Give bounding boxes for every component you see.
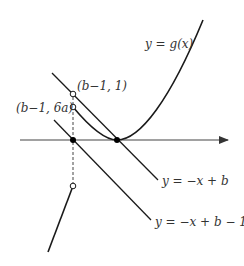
- label-curve-g: y = g(x): [144, 37, 194, 51]
- label-point-lower: (b−1, 6a): [16, 101, 73, 115]
- label-point-upper: (b−1, 1): [77, 79, 127, 93]
- label-line-1: y = −x + b: [161, 174, 229, 188]
- label-line-2: y = −x + b − 1: [154, 215, 244, 229]
- open-point-upper: [70, 91, 76, 97]
- solid-point-right: [114, 137, 120, 143]
- solid-point-left: [70, 137, 76, 143]
- curve-g-left: [48, 186, 73, 252]
- open-point-bottom: [70, 183, 76, 189]
- graph-diagram: y = g(x) (b−1, 1) (b−1, 6a) y = −x + b y…: [0, 0, 244, 266]
